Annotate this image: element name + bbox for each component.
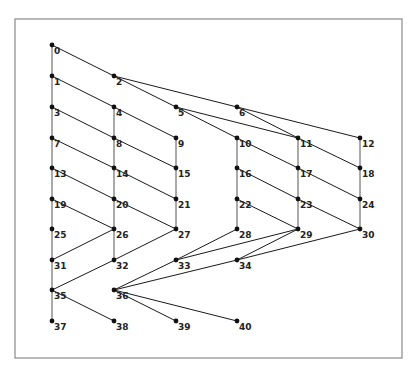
node-label: 29 — [300, 230, 313, 240]
node-label: 18 — [362, 169, 375, 179]
node-label: 15 — [178, 169, 191, 179]
node-label: 37 — [54, 322, 67, 332]
node-label: 28 — [239, 230, 252, 240]
node-label: 24 — [362, 200, 375, 210]
node-label: 16 — [239, 169, 252, 179]
node-label: 0 — [54, 46, 60, 56]
node-label: 22 — [239, 200, 252, 210]
node-label: 27 — [178, 230, 191, 240]
node-label: 35 — [54, 291, 67, 301]
node-label: 20 — [116, 200, 129, 210]
node-label: 4 — [116, 108, 122, 118]
node-label: 25 — [54, 230, 67, 240]
node-label: 26 — [116, 230, 129, 240]
node-label: 14 — [116, 169, 129, 179]
node-label: 10 — [239, 139, 252, 149]
node-label: 12 — [362, 139, 375, 149]
node-label: 39 — [178, 322, 191, 332]
node-label: 31 — [54, 261, 67, 271]
node-label: 9 — [178, 139, 184, 149]
node-label: 34 — [239, 261, 252, 271]
node-label: 8 — [116, 139, 122, 149]
node-label: 17 — [300, 169, 313, 179]
node-label: 30 — [362, 230, 375, 240]
node-label: 33 — [178, 261, 191, 271]
node-label: 6 — [239, 108, 245, 118]
diagram-frame — [15, 19, 402, 358]
graph-canvas: 0123456789101112131415161718192021222324… — [0, 0, 418, 373]
node-label: 32 — [116, 261, 129, 271]
node-label: 1 — [54, 77, 60, 87]
node-label: 13 — [54, 169, 67, 179]
node-label: 11 — [300, 139, 313, 149]
node-label: 5 — [178, 108, 184, 118]
node-label: 40 — [239, 322, 252, 332]
node-label: 23 — [300, 200, 313, 210]
node-label: 36 — [116, 291, 129, 301]
node-label: 19 — [54, 200, 67, 210]
node-label: 3 — [54, 108, 60, 118]
node-label: 38 — [116, 322, 129, 332]
node-label: 7 — [54, 139, 60, 149]
node-label: 2 — [116, 77, 122, 87]
node-label: 21 — [178, 200, 191, 210]
